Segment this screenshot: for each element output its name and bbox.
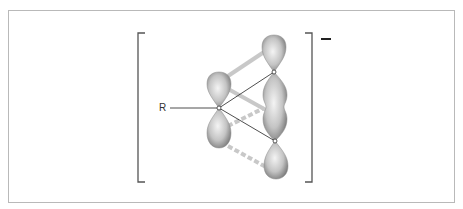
atom-central — [217, 106, 221, 110]
lobe-central-lower — [207, 108, 231, 148]
overlap-bands — [228, 52, 266, 167]
atom-lower-right — [273, 139, 277, 143]
lobe-lower-right-bottom — [264, 141, 288, 179]
atom-upper-right — [272, 70, 276, 74]
solid-band-middle — [230, 90, 266, 110]
lobe-middle-merged — [263, 72, 287, 141]
negative-charge — [321, 38, 331, 40]
dashed-band-bottom — [228, 146, 266, 167]
substituent-label: R — [159, 102, 166, 113]
dashed-band-middle — [228, 108, 264, 126]
left-bracket — [138, 33, 145, 182]
orbital-diagram — [0, 0, 463, 209]
right-bracket — [305, 33, 312, 182]
solid-band-top — [228, 52, 264, 76]
lobe-upper-right-top — [262, 35, 286, 72]
